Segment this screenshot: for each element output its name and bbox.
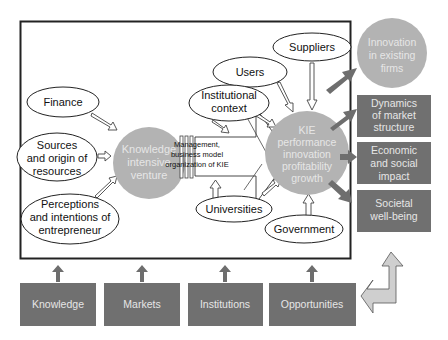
svg-text:performance: performance	[278, 136, 337, 148]
svg-text:Societal: Societal	[375, 197, 412, 209]
svg-text:Knowledge: Knowledge	[122, 143, 176, 155]
institutional-context-node: Institutional context	[189, 85, 269, 121]
svg-text:and intentions of: and intentions of	[30, 211, 112, 223]
svg-text:Economic: Economic	[371, 144, 417, 156]
svg-text:innovation: innovation	[283, 148, 331, 160]
universities-node: Universities	[196, 196, 272, 222]
svg-text:Dynamics: Dynamics	[371, 97, 417, 109]
svg-text:venture: venture	[131, 169, 168, 181]
svg-text:growth: growth	[291, 172, 323, 184]
svg-text:organization of KIE: organization of KIE	[165, 160, 228, 169]
svg-text:Sources: Sources	[37, 139, 78, 151]
svg-text:Suppliers: Suppliers	[289, 41, 335, 53]
suppliers-node: Suppliers	[273, 33, 351, 61]
svg-text:of market: of market	[372, 109, 416, 121]
svg-text:Institutions: Institutions	[200, 298, 250, 310]
users-node: Users	[213, 57, 287, 87]
svg-text:profitability: profitability	[282, 160, 333, 172]
bottom-box-knowledge: Knowledge	[20, 283, 96, 326]
svg-text:context: context	[211, 102, 246, 114]
svg-text:Innovation: Innovation	[368, 36, 417, 48]
svg-text:Institutional: Institutional	[201, 89, 257, 101]
dynamics-market-structure-box: Dynamics of market structure	[357, 95, 431, 137]
svg-text:Government: Government	[274, 223, 335, 235]
svg-text:Markets: Markets	[123, 298, 160, 310]
government-node: Government	[265, 215, 343, 243]
svg-text:Universities: Universities	[206, 203, 263, 215]
svg-text:Management,: Management,	[174, 140, 220, 149]
svg-text:Perceptions: Perceptions	[41, 198, 100, 210]
svg-text:firms: firms	[381, 62, 404, 74]
svg-text:Opportunities: Opportunities	[281, 298, 343, 310]
svg-text:and social: and social	[370, 157, 417, 169]
sources-node: Sources and origin of resources	[17, 133, 97, 181]
svg-text:structure: structure	[374, 121, 415, 133]
bottom-box-opportunities: Opportunities	[269, 283, 356, 326]
svg-text:Knowledge: Knowledge	[32, 298, 84, 310]
svg-text:in existing: in existing	[369, 49, 416, 61]
kie-diagram: Knowledge intensive venture Management, …	[0, 0, 448, 340]
svg-text:impact: impact	[379, 170, 410, 182]
svg-text:Finance: Finance	[43, 96, 82, 108]
bottom-box-institutions: Institutions	[188, 283, 263, 326]
bottom-box-markets: Markets	[104, 283, 180, 326]
svg-text:and origin of: and origin of	[27, 152, 88, 164]
svg-text:intensive: intensive	[127, 156, 170, 168]
svg-text:business model: business model	[171, 150, 223, 159]
svg-text:KIE: KIE	[299, 124, 316, 136]
svg-text:resources: resources	[33, 165, 82, 177]
svg-text:well-being: well-being	[369, 210, 417, 222]
societal-well-being-box: Societal well-being	[357, 190, 431, 232]
economic-social-impact-box: Economic and social impact	[357, 142, 431, 184]
feedback-arrow	[361, 252, 403, 313]
perceptions-node: Perceptions and intentions of entreprene…	[21, 194, 119, 244]
innovation-existing-firms-circle: Innovation in existing firms	[357, 18, 427, 88]
finance-node: Finance	[27, 87, 99, 117]
svg-text:entrepreneur: entrepreneur	[39, 224, 102, 236]
svg-text:Users: Users	[236, 66, 265, 78]
bottom-up-arrows	[52, 265, 318, 282]
